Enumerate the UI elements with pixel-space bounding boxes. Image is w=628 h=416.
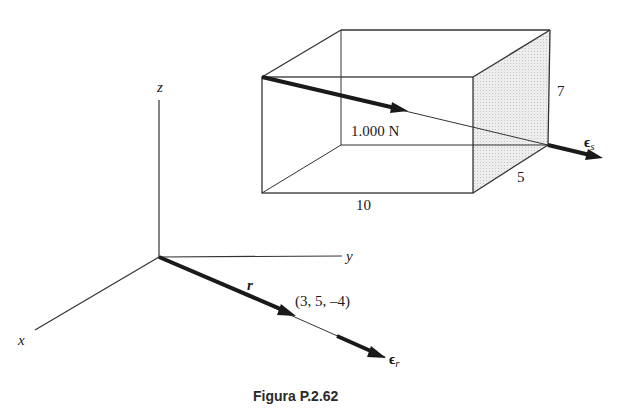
position-vector-r-arrow [159, 257, 296, 316]
unit-vector-er-label: ϵr [389, 351, 400, 369]
unit-vector-es-label: ϵs [584, 134, 595, 152]
x-axis [35, 257, 159, 330]
z-axis-label: z [156, 79, 163, 95]
unit-vector-er-arrow [337, 336, 386, 358]
position-vector-r-label: r [247, 277, 253, 293]
box-length-label: 10 [356, 197, 371, 213]
box-height-label: 7 [557, 83, 565, 99]
point-coordinates-label: (3, 5, –4) [295, 293, 350, 310]
figure-canvas: z y x 1.000 N 10 5 7 ϵs r (3, 5, –4) ϵr … [0, 0, 628, 416]
force-arrow [262, 77, 408, 113]
unit-vector-es-arrow [548, 145, 603, 160]
force-magnitude-label: 1.000 N [351, 123, 400, 139]
figure-caption: Figura P.2.62 [253, 388, 339, 404]
y-axis-label: y [344, 248, 353, 264]
x-axis-label: x [17, 332, 25, 348]
box-depth-label: 5 [517, 169, 525, 185]
y-axis [159, 256, 342, 257]
